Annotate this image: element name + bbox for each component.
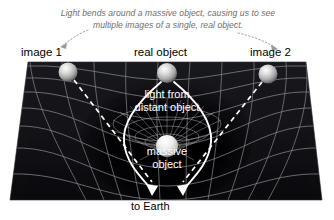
label-massive-line2: object [132,158,202,171]
label-light-from-line2: distant object [117,101,217,114]
leader-line-right [238,33,275,47]
label-massive-line1: massive [132,145,202,158]
leader-line-left [63,30,88,45]
label-massive-object: massive object [132,145,202,170]
real-object-sphere [157,63,177,83]
label-real-object: real object [134,46,187,58]
label-light-from-distant-object: light from distant object [117,88,217,113]
image-1-sphere [59,63,78,82]
caption-leader-lines [63,30,275,47]
label-to-earth: to Earth [131,200,170,212]
label-image-1: image 1 [21,46,62,58]
spacetime-sheet [10,62,322,202]
gravitational-lensing-figure: Light bends around a massive object, cau… [0,0,334,220]
image-2-sphere [259,65,278,84]
figure-caption: Light bends around a massive object, cau… [52,8,284,31]
label-light-from-line1: light from [117,88,217,101]
label-image-2: image 2 [250,46,291,58]
